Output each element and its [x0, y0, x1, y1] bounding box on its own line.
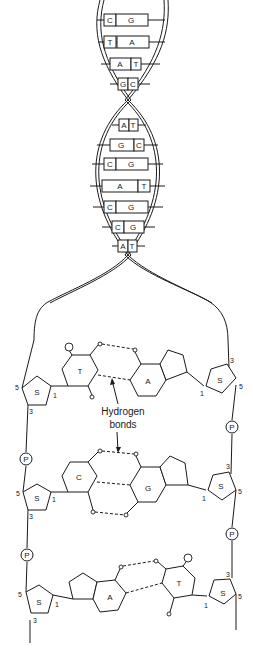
sugar-label: S: [218, 482, 223, 491]
helix-strand-unwind-right: [125, 255, 228, 340]
base-label: C: [107, 160, 113, 169]
helix-strand-unwind-left-inner: [50, 255, 131, 303]
base-pair-t-a: S 5 3 1 T A S 3 5 1: [15, 342, 243, 415]
base-label: A: [145, 377, 151, 386]
base-label: T: [131, 121, 136, 130]
base-label: G: [130, 223, 136, 232]
phosphate-label: P: [24, 551, 29, 560]
carbon-number: 1: [200, 390, 204, 397]
carbon-number: 1: [202, 495, 206, 502]
base-label: C: [130, 80, 136, 89]
base-label: T: [134, 60, 139, 69]
base-label: G: [120, 80, 126, 89]
base-label: A: [120, 242, 126, 251]
base-label: C: [115, 223, 121, 232]
sugar-label: S: [36, 598, 41, 607]
base-label: G: [128, 16, 134, 25]
base-label: A: [129, 38, 135, 47]
base-label: T: [108, 38, 113, 47]
base-pair-c-g: S 5 3 1 C G S 3 5 1: [16, 449, 242, 520]
base-label: A: [107, 593, 113, 602]
carbon-number: 3: [230, 357, 234, 364]
base-label: G: [145, 484, 151, 493]
annotation-line1: Hydrogen: [101, 406, 144, 417]
carbon-number: 3: [226, 571, 230, 578]
carbon-number: 3: [29, 513, 33, 520]
base-label: T: [78, 367, 83, 376]
carbon-number: 5: [18, 591, 22, 598]
carbon-number: 5: [238, 488, 242, 495]
sugar-label: S: [217, 376, 222, 385]
carbon-number: 5: [238, 593, 242, 600]
base-label: T: [177, 579, 182, 588]
carbon-number: 5: [15, 384, 19, 391]
phosphate-group: P P P P: [20, 421, 238, 561]
sugar-label: S: [220, 589, 225, 598]
carbon-number: 1: [204, 602, 208, 609]
helix-strand-unwind-left: [34, 255, 128, 340]
base-label: G: [128, 203, 134, 212]
phosphate-label: P: [23, 455, 28, 464]
phosphate-label: P: [229, 423, 234, 432]
carbon-number: 3: [29, 408, 33, 415]
base-label: A: [117, 60, 123, 69]
base-label: T: [142, 182, 147, 191]
base-pair-rungs: C G T A A T G C A T G C C: [90, 14, 165, 252]
base-label: T: [130, 242, 135, 251]
base-label: G: [128, 160, 134, 169]
carbon-number: 1: [53, 392, 57, 399]
helix-strand-unwind-right-inner: [128, 255, 212, 303]
carbon-number: 1: [55, 601, 59, 608]
carbon-number: 5: [16, 490, 20, 497]
base-label: A: [121, 121, 127, 130]
base-label: C: [107, 203, 113, 212]
sugar-label: S: [34, 388, 39, 397]
base-label: C: [136, 141, 142, 150]
annotation-line2: bonds: [109, 419, 136, 430]
base-pair-a-t: S 5 3 1 A T S 3 5 1: [18, 554, 242, 624]
carbon-number: 1: [52, 496, 56, 503]
carbon-number: 3: [226, 463, 230, 470]
base-label: C: [107, 16, 113, 25]
sugar-label: S: [34, 494, 39, 503]
base-label: G: [118, 141, 124, 150]
carbon-number: 3: [33, 617, 37, 624]
base-label: A: [117, 182, 123, 191]
dna-diagram: C G T A A T G C A T G C C: [0, 0, 253, 651]
carbon-number: 5: [239, 383, 243, 390]
phosphate-label: P: [229, 530, 234, 539]
base-label: C: [76, 473, 82, 482]
